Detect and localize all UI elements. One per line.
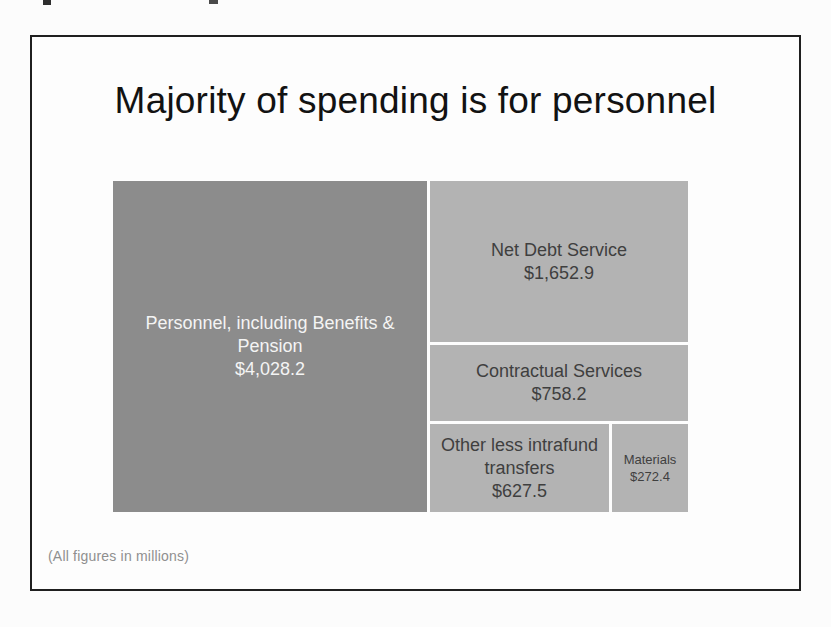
treemap-tile-materials: Materials $272.4 [612,424,688,512]
treemap-tile-net-debt-service: Net Debt Service $1,652.9 [430,181,688,342]
tile-value: $272.4 [630,469,670,484]
tile-text: Other less intrafund transfers $627.5 [440,434,600,503]
tile-value: $627.5 [492,481,547,501]
tile-value: $4,028.2 [235,359,305,379]
tile-text: Materials $272.4 [624,451,677,485]
cropped-text-mark [43,0,51,5]
cropped-text-mark [209,0,218,4]
slide-title: Majority of spending is for personnel [32,79,799,123]
tile-text: Net Debt Service $1,652.9 [491,239,627,285]
tile-label: Contractual Services [476,361,642,381]
tile-value: $1,652.9 [524,263,594,283]
tile-text: Contractual Services $758.2 [476,360,642,406]
treemap-tile-contractual-services: Contractual Services $758.2 [430,345,688,421]
tile-label: Materials [624,452,677,467]
treemap-tile-other-less-intrafund-transfers: Other less intrafund transfers $627.5 [430,424,609,512]
treemap-tile-personnel: Personnel, including Benefits & Pension … [113,181,427,512]
tile-label: Other less intrafund transfers [441,435,598,478]
figures-footnote: (All figures in millions) [48,548,189,564]
spending-treemap: Personnel, including Benefits & Pension … [113,181,688,512]
tile-label: Net Debt Service [491,240,627,260]
tile-label: Personnel, including Benefits & Pension [145,313,394,356]
tile-value: $758.2 [531,384,586,404]
tile-text: Personnel, including Benefits & Pension … [130,312,410,381]
slide: Majority of spending is for personnel Pe… [30,35,801,591]
